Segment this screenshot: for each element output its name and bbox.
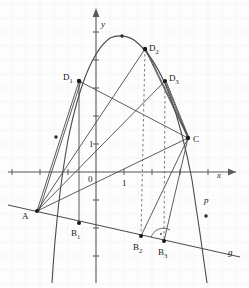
curve-label-g: g (228, 248, 233, 257)
parabola-vertex-marker (120, 34, 123, 37)
point-label-D3: D3 (169, 74, 179, 85)
segment-a-d1 (37, 81, 79, 211)
figure-canvas (0, 0, 249, 288)
point-D1-dot (77, 79, 81, 83)
point-C-dot (186, 136, 190, 140)
point-D2-dot (143, 47, 147, 51)
x-axis-arrow (228, 169, 236, 176)
axis-label-y: y (101, 20, 105, 29)
point-label-B3: B3 (158, 248, 167, 259)
geometry-figure: x y 0 1 1 p g A B1 B2 B3 C D1 D2 D3 (0, 0, 249, 288)
y-unit-label: 1 (89, 140, 94, 149)
dashed-d2-b2 (141, 49, 145, 236)
point-A-dot (35, 209, 39, 213)
segment-d3-c-b (166, 81, 189, 138)
y-axis-arrow (93, 8, 100, 17)
line-p-marker (204, 214, 207, 217)
point-label-B2: B2 (133, 243, 142, 254)
segment-d2-c (145, 49, 188, 138)
x-unit-label: 1 (122, 179, 127, 188)
segment-a-d3 (37, 81, 165, 211)
point-label-D1: D1 (63, 73, 73, 84)
segment-midpoint-a-d1 (54, 135, 57, 138)
segment-d3-c (165, 81, 188, 138)
right-angle-marker (151, 228, 170, 237)
dashed-d3-b3 (164, 81, 165, 241)
segment-b3-c (164, 138, 188, 241)
point-label-C: C (193, 135, 199, 144)
marked-points (54, 34, 207, 217)
segment-d1-c (79, 81, 188, 138)
point-B2-dot (139, 234, 143, 238)
point-label-B1: B1 (71, 229, 80, 240)
axis-label-x: x (217, 171, 221, 180)
curve-label-p: p (204, 196, 209, 205)
point-B1-dot (77, 221, 81, 225)
origin-label: 0 (88, 175, 93, 184)
point-B3-dot (162, 239, 166, 243)
point-D3-dot (163, 79, 167, 83)
grid-lines (0, 0, 249, 288)
point-label-D2: D2 (149, 44, 159, 55)
point-label-A: A (22, 212, 29, 221)
dashed-droplines (141, 49, 165, 241)
